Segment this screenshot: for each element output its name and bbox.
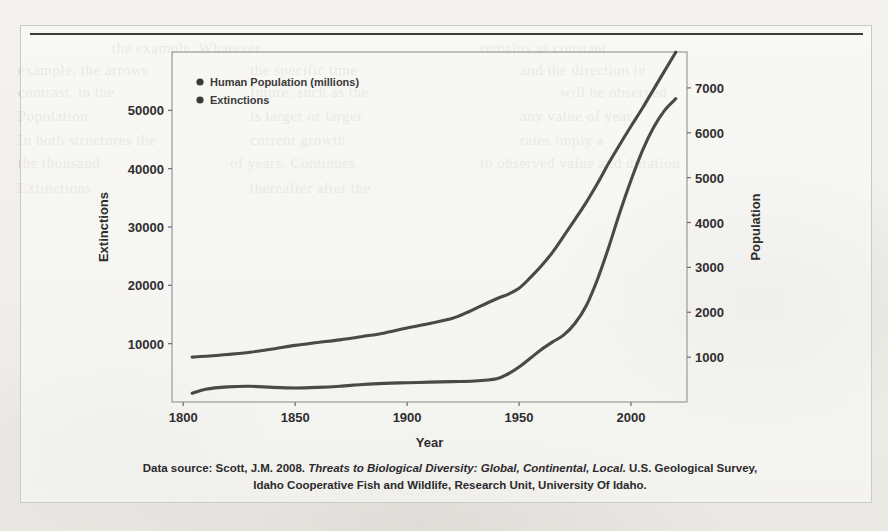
caption-line1-prefix: Data source: Scott, J.M. 2008. — [143, 462, 309, 474]
caption-line2: Idaho Cooperative Fish and Wildlife, Res… — [253, 479, 647, 491]
caption-line1-suffix: U.S. Geological Survey, — [626, 462, 757, 474]
caption-line1-italic-title: Threats to Biological Diversity: Global,… — [308, 462, 626, 474]
page-horizontal-rule — [30, 33, 863, 35]
figure-outer-frame — [20, 25, 872, 503]
figure-caption: Data source: Scott, J.M. 2008. Threats t… — [60, 460, 840, 494]
